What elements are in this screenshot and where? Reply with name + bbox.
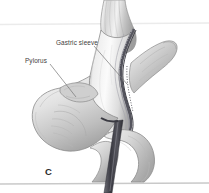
- resected-stomach-specimen: [129, 41, 177, 93]
- panel-letter: C: [45, 166, 52, 177]
- bottom-rule: [0, 183, 209, 184]
- anatomy-illustration: [0, 0, 209, 193]
- label-gastric-sleeve: Gastric sleeve: [56, 40, 98, 46]
- gastric-sleeve-figure: Gastric sleeve Pylorus C: [0, 0, 209, 193]
- label-pylorus: Pylorus: [25, 58, 47, 64]
